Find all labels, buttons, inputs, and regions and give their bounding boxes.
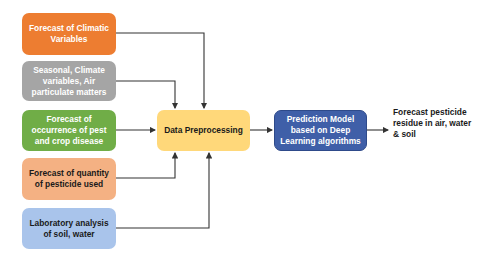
input-pest-disease: Forecast of occurrence of pest and crop … — [22, 110, 116, 151]
input-label: Seasonal, Climate variables, Air particu… — [26, 65, 112, 98]
node-label: Data Preprocessing — [164, 125, 243, 136]
input-label: Laboratory analysis of soil, water — [26, 218, 112, 240]
input-label: Forecast of Climatic Variables — [26, 23, 112, 45]
input-seasonal-climate: Seasonal, Climate variables, Air particu… — [22, 61, 116, 101]
output-label: Forecast pesticide residue in air, water… — [393, 107, 477, 140]
prediction-model-node: Prediction Model based on Deep Learning … — [274, 110, 367, 151]
input-label: Forecast of quantity of pesticide used — [26, 168, 112, 190]
input-climatic-forecast: Forecast of Climatic Variables — [22, 13, 116, 55]
input-lab-analysis: Laboratory analysis of soil, water — [22, 208, 116, 249]
data-preprocessing-node: Data Preprocessing — [157, 110, 250, 151]
node-label: Prediction Model based on Deep Learning … — [279, 114, 362, 147]
input-pesticide-quantity: Forecast of quantity of pesticide used — [22, 158, 116, 200]
input-label: Forecast of occurrence of pest and crop … — [26, 114, 112, 147]
